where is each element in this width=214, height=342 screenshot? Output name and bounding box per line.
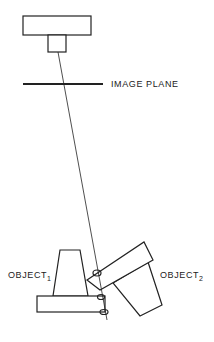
object2-subscript: 2 xyxy=(199,275,204,282)
object1-subscript: 1 xyxy=(47,275,52,282)
object2-label: OBJECT2 xyxy=(160,270,204,282)
camera-body xyxy=(23,16,91,35)
image-plane-text: IMAGE PLANE xyxy=(111,79,179,89)
object1-label: OBJECT1 xyxy=(8,270,52,282)
diagram-canvas: IMAGE PLANE OBJECT1 OBJECT2 xyxy=(0,0,214,342)
object1-trapezoid xyxy=(53,250,88,296)
object1-base xyxy=(37,296,105,312)
diagram-svg xyxy=(0,0,214,342)
object2-text: OBJECT xyxy=(160,270,199,280)
image-plane-label: IMAGE PLANE xyxy=(111,79,179,89)
camera-lens xyxy=(48,35,66,52)
object1-text: OBJECT xyxy=(8,270,47,280)
